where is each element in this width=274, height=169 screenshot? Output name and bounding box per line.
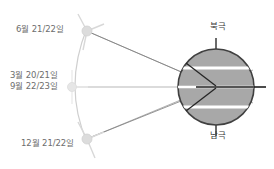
- label-summer-solstice: 6월 21/22일: [16, 24, 64, 35]
- sun-summer-solstice: [78, 14, 104, 50]
- label-spring-equinox: 3월 20/21일: [10, 70, 58, 81]
- seasons-diagram: 6월 21/22일 3월 20/21일 9월 22/23일 12월 21/22일…: [0, 0, 274, 169]
- label-south-pole: 남극: [198, 130, 238, 141]
- orbit-arc: [75, 28, 87, 142]
- sun-equinoxes: [68, 70, 89, 104]
- label-autumn-equinox: 9월 22/23일: [10, 81, 58, 92]
- label-winter-solstice: 12월 21/22일: [21, 138, 74, 149]
- label-equinoxes: 3월 20/21일 9월 22/23일: [10, 70, 58, 92]
- label-north-pole: 북극: [198, 21, 238, 32]
